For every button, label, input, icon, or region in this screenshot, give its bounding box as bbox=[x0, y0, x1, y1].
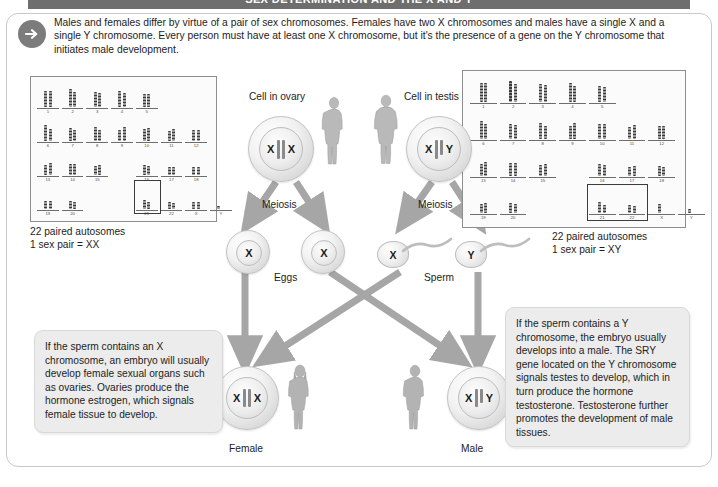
offspring-male-label: Male bbox=[461, 443, 483, 454]
chromosome-Y: Y bbox=[678, 187, 705, 220]
karyotype-female: 12345678910111213141516171819202122XY bbox=[30, 76, 217, 222]
chromosome-9: 9 bbox=[559, 113, 586, 146]
chromosome-3: 3 bbox=[86, 81, 108, 114]
cell-in-testis-label: Cell in testis bbox=[404, 91, 459, 102]
chromosome-2: 2 bbox=[62, 81, 84, 114]
chromosome-10: 10 bbox=[589, 113, 616, 146]
chromosome-9: 9 bbox=[111, 115, 133, 148]
chromosome-12: 12 bbox=[648, 113, 675, 146]
intro-banner: Males and females differ by virtue of a … bbox=[14, 16, 690, 68]
female-chromosome-left: X bbox=[233, 392, 240, 404]
chromosome-2: 2 bbox=[500, 76, 527, 109]
offspring-female-label: Female bbox=[229, 443, 263, 454]
chromosome-8: 8 bbox=[529, 113, 556, 146]
chromosome-7: 7 bbox=[500, 113, 527, 146]
male-chromosome-right: Y bbox=[486, 392, 493, 404]
chromosome-19: 19 bbox=[470, 187, 497, 220]
chromosome-18: 18 bbox=[648, 150, 675, 183]
chromosome-15: 15 bbox=[529, 150, 556, 183]
chromosome-12: 12 bbox=[185, 115, 207, 148]
chromosome-17: 17 bbox=[619, 150, 646, 183]
chromosome-5: 5 bbox=[589, 76, 616, 109]
chromosome-11: 11 bbox=[161, 115, 183, 148]
chromosome-15: 15 bbox=[86, 149, 108, 182]
adult-female-figure bbox=[321, 95, 347, 181]
arrow-right-circle-icon bbox=[18, 20, 46, 48]
page-header-bar: SEX DETERMINATION AND THE X AND Y bbox=[28, 0, 690, 9]
chromosome-6: 6 bbox=[37, 115, 59, 148]
offspring-male-cell: X Y bbox=[447, 366, 511, 430]
egg-cell-2: X bbox=[301, 230, 345, 274]
sperm-label: Sperm bbox=[424, 272, 454, 283]
egg-2-chromosome: X bbox=[320, 247, 327, 259]
testis-chromosome-right: Y bbox=[446, 143, 453, 155]
cell-in-ovary-label: Cell in ovary bbox=[249, 91, 305, 102]
chromosome-5: 5 bbox=[136, 81, 158, 114]
chromosome-18: 18 bbox=[185, 149, 207, 182]
ovary-chromosome-left: X bbox=[267, 143, 274, 155]
offspring-female-cell: X X bbox=[215, 366, 279, 430]
meiosis-label-left: Meiosis bbox=[262, 199, 297, 210]
karyotype-female-caption: 22 paired autosomes 1 sex pair = XX bbox=[30, 226, 125, 251]
chromosome-X: X bbox=[648, 187, 675, 220]
page-header-title: SEX DETERMINATION AND THE X AND Y bbox=[28, 0, 690, 5]
chromosome-16: 16 bbox=[136, 149, 158, 182]
karyotype-male-caption: 22 paired autosomes 1 sex pair = XY bbox=[552, 231, 647, 256]
chromosome-20: 20 bbox=[62, 183, 84, 216]
intro-text: Males and females differ by virtue of a … bbox=[54, 16, 688, 56]
egg-cell-1: X bbox=[226, 230, 270, 274]
female-outcome-note: If the sperm contains an X chromosome, a… bbox=[34, 330, 223, 433]
karyotype-male: 12345678910111213141516171819202122XY bbox=[462, 70, 686, 228]
sex-chromosome-highlight bbox=[587, 184, 648, 221]
chromosome-Y: Y bbox=[210, 183, 232, 216]
chromosome-8: 8 bbox=[86, 115, 108, 148]
chromosome-17: 17 bbox=[161, 149, 183, 182]
chromosome-14: 14 bbox=[62, 149, 84, 182]
male-chromosome-left: X bbox=[465, 392, 472, 404]
adult-male-figure bbox=[371, 93, 401, 183]
chromosome-11: 11 bbox=[619, 113, 646, 146]
chromosome-7: 7 bbox=[62, 115, 84, 148]
chromosome-22: 22 bbox=[161, 183, 183, 216]
chromosome-19: 19 bbox=[37, 183, 59, 216]
chromosome-16: 16 bbox=[589, 150, 616, 183]
chromosome-4: 4 bbox=[111, 81, 133, 114]
male-outcome-note: If the sperm contains a Y chromosome, th… bbox=[505, 307, 690, 447]
cell-in-ovary: X X bbox=[248, 116, 314, 182]
sperm-y-chromosome: Y bbox=[467, 249, 474, 261]
chromosome-14: 14 bbox=[500, 150, 527, 183]
chromosome-6: 6 bbox=[470, 113, 497, 146]
chromosome-3: 3 bbox=[529, 76, 556, 109]
female-chromosome-right: X bbox=[254, 392, 261, 404]
eggs-label: Eggs bbox=[274, 272, 297, 283]
chromosome-1: 1 bbox=[37, 81, 59, 114]
chromosome-X: X bbox=[185, 183, 207, 216]
child-female-figure bbox=[287, 362, 313, 446]
chromosome-20: 20 bbox=[500, 187, 527, 220]
child-male-figure bbox=[402, 362, 428, 446]
figure-page: SEX DETERMINATION AND THE X AND Y Males … bbox=[0, 0, 718, 487]
chromosome-4: 4 bbox=[559, 76, 586, 109]
chromosome-13: 13 bbox=[37, 149, 59, 182]
ovary-chromosome-right: X bbox=[288, 143, 295, 155]
sex-chromosome-highlight bbox=[134, 180, 161, 214]
chromosome-1: 1 bbox=[470, 76, 497, 109]
chromosome-13: 13 bbox=[470, 150, 497, 183]
sperm-x-chromosome: X bbox=[389, 249, 396, 261]
testis-chromosome-left: X bbox=[425, 143, 432, 155]
chromosome-10: 10 bbox=[136, 115, 158, 148]
meiosis-label-right: Meiosis bbox=[418, 199, 453, 210]
cell-in-testis: X Y bbox=[406, 116, 472, 182]
egg-1-chromosome: X bbox=[245, 247, 252, 259]
